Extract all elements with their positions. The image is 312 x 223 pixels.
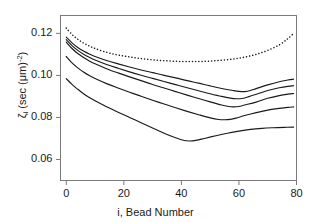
- y-tick-label-0-06: 0.06: [0, 152, 53, 164]
- curve-solid-1: [66, 37, 293, 91]
- y-axis-symbol: ζ: [16, 113, 28, 118]
- plot-border: [61, 16, 297, 181]
- data-series-group: [66, 28, 293, 141]
- x-tick-label-0: 0: [46, 187, 86, 199]
- x-axis-title-text: i, Bead Number: [117, 206, 193, 218]
- curve-solid-3: [66, 42, 293, 107]
- y-axis-exponent: -2: [15, 55, 24, 62]
- x-tick-label-60: 60: [219, 187, 259, 199]
- x-axis-title: i, Bead Number: [0, 202, 311, 220]
- x-tick-label-20: 20: [104, 187, 144, 199]
- y-axis-units-open: (sec (μm): [16, 62, 28, 112]
- axis-ticks: [56, 33, 297, 185]
- x-tick-label-40: 40: [161, 187, 201, 199]
- curve-dotted-top: [66, 28, 293, 61]
- plot-frame: [61, 16, 297, 181]
- y-axis-title: ζi (sec (μm)-2): [12, 30, 30, 140]
- chart-figure: 020406080 0.060.080.100.12 ζi (sec (μm)-…: [0, 0, 311, 223]
- curve-solid-2: [66, 40, 293, 99]
- x-tick-label-80: 80: [277, 187, 312, 199]
